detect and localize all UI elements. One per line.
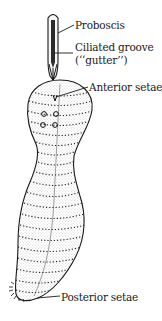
worm-body <box>9 80 92 302</box>
label-proboscis: Proboscis <box>75 19 125 31</box>
label-posterior-setae: Posterior setae <box>61 291 138 303</box>
proboscis <box>48 15 58 81</box>
ciliated-groove <box>51 20 55 68</box>
label-ciliated-groove: Ciliated groove <box>75 41 153 53</box>
label-anterior-setae: Anterior setae <box>88 81 162 93</box>
leader-proboscis <box>58 25 74 33</box>
label-gutter: (‘‘gutter’’) <box>75 54 127 66</box>
worm-diagram: Proboscis Ciliated groove (‘‘gutter’’) A… <box>0 0 162 321</box>
